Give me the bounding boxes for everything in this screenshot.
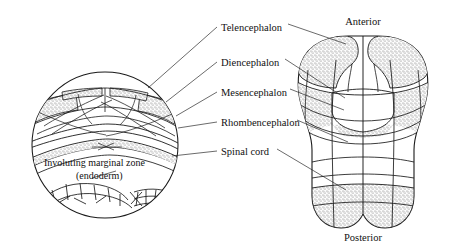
label-involuting-marginal-zone: Involuting marginal zone bbox=[44, 157, 145, 168]
right-neurula-figure bbox=[297, 36, 429, 228]
label-anterior: Anterior bbox=[345, 16, 381, 27]
leader-mesencephalon-left bbox=[176, 92, 217, 116]
label-spinal-cord: Spinal cord bbox=[221, 146, 270, 157]
leader-telencephalon-left bbox=[148, 27, 217, 88]
label-diencephalon: Diencephalon bbox=[221, 57, 280, 68]
label-rhombencephalon: Rhombencephalon bbox=[221, 117, 300, 128]
leader-spinal-cord-left bbox=[172, 151, 217, 156]
leader-diencephalon-left bbox=[166, 62, 217, 102]
label-posterior: Posterior bbox=[344, 232, 382, 243]
label-telencephalon: Telencephalon bbox=[221, 22, 283, 33]
left-embryo-circle bbox=[30, 72, 180, 218]
leader-telencephalon-right bbox=[288, 24, 346, 44]
diagram-canvas: Telencephalon Diencephalon Mesencephalon… bbox=[0, 0, 460, 246]
label-endoderm: (endoderm) bbox=[76, 170, 123, 182]
leader-rhombencephalon-left bbox=[178, 122, 217, 128]
label-mesencephalon: Mesencephalon bbox=[221, 87, 288, 98]
embryo-fate-map-figure: Telencephalon Diencephalon Mesencephalon… bbox=[0, 0, 460, 246]
